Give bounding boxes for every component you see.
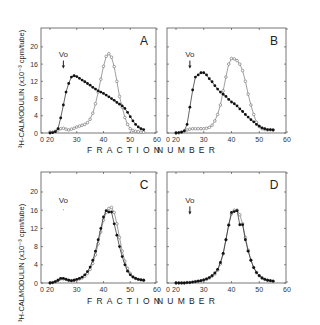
x-axis-label-bottom-left: FRACTION: [87, 296, 164, 306]
panel-letter: C: [140, 178, 149, 192]
data-point-open: [78, 125, 81, 128]
data-point-filled: [222, 252, 225, 255]
panel-letter: B: [270, 34, 278, 48]
data-point-filled: [132, 276, 135, 279]
data-point-filled: [255, 123, 258, 126]
data-point-filled: [191, 281, 194, 284]
data-point-filled: [258, 125, 261, 128]
data-point-filled: [67, 82, 70, 85]
data-point-open: [67, 129, 70, 132]
data-point-open: [116, 80, 119, 83]
data-point-filled: [216, 88, 219, 91]
x-tick-label: 60: [283, 136, 291, 143]
data-point-filled: [140, 127, 143, 130]
x-tick-label: 0: [166, 286, 170, 293]
x-tick-label: 20: [46, 286, 54, 293]
y-tick-label: 8: [34, 95, 38, 102]
data-point-filled: [75, 278, 78, 281]
data-point-filled: [250, 259, 253, 262]
data-point-open: [214, 120, 217, 123]
data-point-filled: [255, 271, 258, 274]
data-point-filled: [75, 75, 78, 78]
data-point-filled: [83, 80, 86, 83]
data-point-filled: [177, 282, 180, 285]
x-tick-label: 20: [172, 286, 180, 293]
data-point-open: [108, 207, 111, 210]
panel-d: 02030405060DVo: [166, 172, 291, 293]
x-tick-label: 30: [200, 136, 208, 143]
data-point-filled: [81, 79, 84, 82]
data-point-filled: [124, 107, 127, 110]
data-point-filled: [140, 278, 143, 281]
data-point-open: [186, 129, 189, 132]
data-point-filled: [97, 89, 100, 92]
data-point-filled: [54, 280, 57, 283]
data-point-filled: [216, 268, 219, 271]
x-tick-label: 40: [228, 136, 236, 143]
data-point-open: [205, 127, 208, 130]
data-point-filled: [261, 126, 264, 129]
data-point-filled: [238, 223, 241, 226]
y-tick-label: 8: [34, 243, 38, 250]
data-point-filled: [89, 84, 92, 87]
data-point-filled: [202, 71, 205, 74]
data-point-filled: [180, 131, 183, 134]
data-point-filled: [94, 88, 97, 91]
data-point-filled: [118, 245, 121, 248]
data-point-open: [70, 128, 73, 131]
data-point-filled: [241, 223, 244, 226]
data-point-filled: [97, 238, 100, 241]
data-point-filled: [137, 278, 140, 281]
plot-frame: [41, 28, 156, 133]
data-point-filled: [49, 132, 52, 135]
data-point-open: [118, 95, 121, 98]
data-point-filled: [86, 270, 89, 273]
data-point-open: [129, 127, 132, 130]
x-tick-label: 30: [73, 286, 81, 293]
x-tick-label: 60: [283, 286, 291, 293]
data-point-filled: [244, 113, 247, 116]
data-point-filled: [266, 128, 269, 131]
data-point-open: [191, 127, 194, 130]
data-point-open: [219, 104, 222, 107]
x-tick-label: 40: [100, 286, 108, 293]
data-point-filled: [99, 91, 102, 94]
data-point-filled: [197, 73, 200, 76]
data-point-filled: [247, 250, 250, 253]
data-point-filled: [99, 227, 102, 230]
data-point-filled: [219, 261, 222, 264]
data-point-filled: [54, 130, 57, 133]
void-volume-marker: Vo: [185, 196, 195, 205]
data-point-open: [208, 126, 211, 129]
data-point-filled: [269, 128, 272, 131]
data-point-open: [194, 127, 197, 130]
data-point-open: [250, 104, 253, 107]
panel-letter: A: [140, 34, 148, 48]
data-point-filled: [121, 104, 124, 107]
data-point-filled: [175, 132, 178, 135]
data-point-filled: [73, 279, 76, 282]
data-point-filled: [191, 89, 194, 92]
data-point-filled: [59, 117, 62, 120]
y-tick-label: 12: [30, 78, 38, 85]
void-volume-marker: Vo: [59, 50, 69, 59]
x-tick-label: 20: [172, 136, 180, 143]
data-point-filled: [78, 77, 81, 80]
data-point-filled: [219, 91, 222, 94]
y-tick-label: 12: [30, 225, 38, 232]
x-tick-label: 50: [126, 136, 134, 143]
data-point-filled: [115, 101, 118, 104]
data-point-open: [236, 59, 239, 62]
data-point-filled: [208, 276, 211, 279]
data-point-filled: [225, 95, 228, 98]
data-point-filled: [236, 104, 239, 107]
data-point-open: [124, 116, 127, 119]
data-point-filled: [110, 211, 113, 214]
data-point-filled: [49, 282, 52, 285]
data-point-filled: [272, 280, 275, 283]
data-point-open: [137, 130, 140, 133]
data-point-open: [113, 65, 116, 68]
x-axis-label-top-left: FRACTION: [87, 145, 164, 155]
y-tick-label: 16: [30, 61, 38, 68]
data-point-open: [189, 128, 192, 131]
